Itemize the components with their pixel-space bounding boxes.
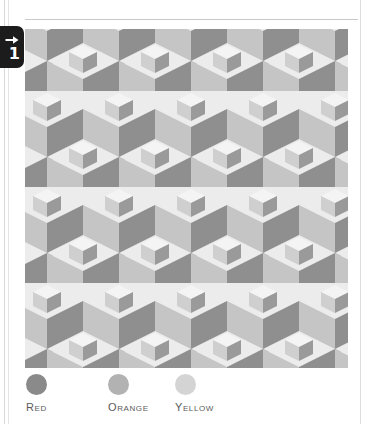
legend-label-yellow: Yellow [175,401,214,413]
legend-item-yellow[interactable]: Yellow [175,374,214,413]
legend-swatch-yellow [175,374,196,395]
pattern-canvas [25,29,348,368]
legend-item-red[interactable]: Red [26,374,47,413]
legend: Red Orange Yellow [16,374,346,418]
page-right-margin-rule [360,0,361,424]
legend-item-orange[interactable]: Orange [108,374,149,413]
legend-swatch-red [26,374,47,395]
legend-label-red: Red [26,401,47,413]
legend-label-orange: Orange [108,401,149,413]
step-badge-number: 1 [9,46,20,62]
step-badge[interactable]: 1 [0,26,24,68]
section-divider-rule [25,19,358,20]
isometric-cube-pattern-figure [25,29,348,368]
legend-swatch-orange [108,374,129,395]
